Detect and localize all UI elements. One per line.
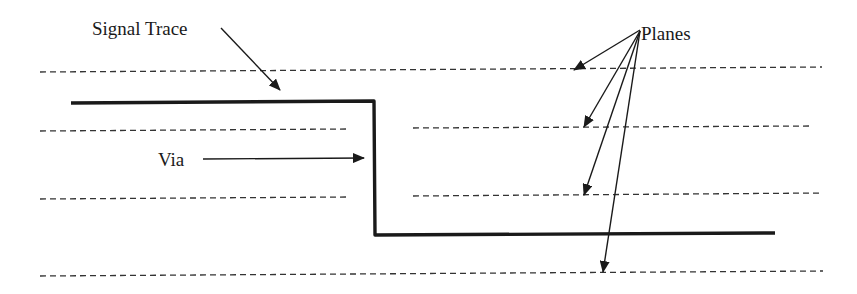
planes-arrow-1 — [574, 30, 640, 70]
plane-1 — [40, 67, 822, 72]
signal-trace-label: Signal Trace — [92, 18, 188, 39]
planes-arrows — [574, 30, 640, 272]
planes-arrow-4 — [603, 31, 640, 272]
reference-planes — [40, 67, 823, 276]
via-label: Via — [158, 149, 185, 170]
plane-3-left — [40, 197, 347, 199]
plane-2-right — [413, 126, 810, 128]
via-diagram: Signal Trace Via Planes — [0, 0, 857, 294]
signal-trace-arrow — [221, 28, 280, 90]
via-arrow — [203, 158, 364, 159]
plane-3-right — [413, 193, 823, 196]
plane-2-left — [40, 129, 347, 131]
plane-4 — [40, 271, 823, 276]
planes-label: Planes — [641, 23, 691, 44]
